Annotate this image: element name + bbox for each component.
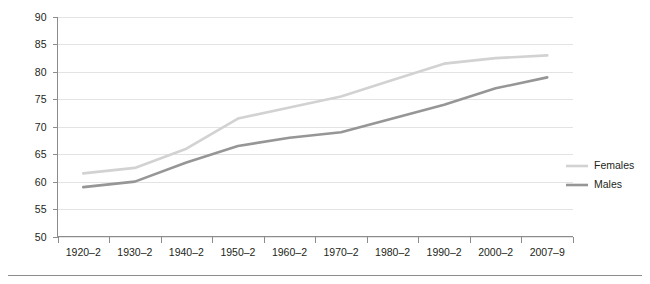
series-line-males: [83, 77, 547, 187]
x-axis-label: 2000–2: [478, 246, 513, 258]
y-axis-tick-labels: 908580757065605550: [35, 11, 47, 243]
x-axis-label: 1990–2: [427, 246, 462, 258]
y-axis-label: 60: [35, 176, 47, 188]
x-axis-label: 1960–2: [272, 246, 307, 258]
x-axis-label: 1930–2: [117, 246, 152, 258]
x-axis-label: 1970–2: [324, 246, 359, 258]
y-axis-label: 50: [35, 231, 47, 243]
x-axis-label: 2007–9: [530, 246, 565, 258]
x-axis-label: 1940–2: [169, 246, 204, 258]
y-axis-label: 75: [35, 93, 47, 105]
y-axis-tick-marks: [53, 18, 58, 238]
y-axis-label: 90: [35, 11, 47, 23]
x-axis-label: 1980–2: [375, 246, 410, 258]
data-series-group: [83, 55, 547, 187]
y-axis-label: 65: [35, 148, 47, 160]
x-axis-tick-labels: 1920–21930–21940–21950–21960–21970–21980…: [66, 246, 565, 258]
legend-label-males: Males: [594, 178, 622, 190]
x-axis-label: 1950–2: [220, 246, 255, 258]
y-axis-label: 70: [35, 121, 47, 133]
y-axis-label: 85: [35, 38, 47, 50]
legend-label-females: Females: [594, 159, 634, 171]
x-axis-label: 1920–2: [66, 246, 101, 258]
line-chart-figure: 908580757065605550 1920–21930–21940–2195…: [0, 0, 650, 284]
y-axis-label: 80: [35, 66, 47, 78]
chart-canvas: 908580757065605550 1920–21930–21940–2195…: [0, 0, 650, 284]
y-axis-label: 55: [35, 203, 47, 215]
gridlines-group: [58, 18, 574, 238]
legend: FemalesMales: [566, 159, 634, 190]
series-line-females: [83, 55, 547, 173]
